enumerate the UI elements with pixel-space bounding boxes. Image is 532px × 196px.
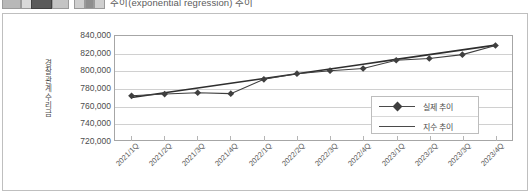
x-tick-label: 2022/1Q	[247, 142, 273, 168]
y-tick-label: 800,000	[55, 66, 111, 75]
data-point-marker[interactable]	[426, 55, 433, 62]
x-tick-mark	[230, 136, 231, 141]
data-point-marker[interactable]	[459, 51, 466, 58]
chart-canvas: 경찰관계수리금 840,000820,000800,000780,000760,…	[3, 14, 529, 192]
x-tick-mark	[496, 136, 497, 141]
toolbar-chip-1-icon[interactable]	[2, 0, 21, 9]
x-tick-label: 2021/2Q	[148, 142, 174, 168]
cropped-toolbar-strip: 추이(exponential regression) 추이	[0, 0, 532, 11]
x-tick-mark	[430, 136, 431, 141]
x-tick-mark	[297, 136, 298, 141]
legend-label-actual: 실제 추이	[423, 101, 453, 112]
y-tick-label: 840,000	[55, 31, 111, 40]
legend-item-actual[interactable]: 실제 추이	[372, 97, 478, 116]
chart-legend: 실제 추이 지수 추이	[371, 96, 479, 134]
x-tick-mark	[264, 136, 265, 141]
x-tick-mark	[131, 136, 132, 141]
plot-area: 실제 추이 지수 추이	[114, 35, 513, 141]
x-tick-label: 2023/4Q	[480, 142, 506, 168]
y-tick-label: 720,000	[55, 137, 111, 146]
x-tick-mark	[397, 136, 398, 141]
toolbar-chip-6-icon[interactable]	[85, 0, 94, 9]
x-tick-label: 2022/4Q	[347, 142, 373, 168]
x-tick-label: 2022/3Q	[314, 142, 340, 168]
y-tick-label: 820,000	[55, 48, 111, 57]
figure-frame: 경찰관계수리금 840,000820,000800,000780,000760,…	[2, 13, 528, 191]
x-tick-mark	[463, 136, 464, 141]
x-tick-mark	[363, 136, 364, 141]
x-axis-tick-labels: 2021/1Q2021/2Q2021/3Q2021/4Q2022/1Q2022/…	[114, 142, 513, 190]
data-point-marker[interactable]	[492, 42, 499, 49]
legend-line-icon	[377, 121, 417, 133]
data-point-marker[interactable]	[294, 70, 301, 77]
data-point-marker[interactable]	[393, 57, 400, 64]
toolbar-chip-5-icon[interactable]	[74, 0, 85, 9]
y-tick-label: 760,000	[55, 101, 111, 110]
data-point-marker[interactable]	[260, 76, 267, 83]
toolbar-chip-3-icon[interactable]	[31, 0, 52, 9]
toolbar-chip-7-icon[interactable]	[94, 0, 105, 9]
toolbar-chip-4-icon[interactable]	[52, 0, 69, 9]
x-tick-label: 2023/3Q	[447, 142, 473, 168]
x-tick-label: 2021/1Q	[114, 142, 140, 168]
data-point-marker[interactable]	[194, 89, 201, 96]
data-point-marker[interactable]	[128, 92, 135, 99]
legend-marker-diamond-icon	[377, 101, 417, 113]
x-tick-mark	[164, 136, 165, 141]
y-tick-label: 780,000	[55, 84, 111, 93]
x-tick-mark	[197, 136, 198, 141]
legend-item-exponential[interactable]: 지수 추이	[372, 116, 478, 136]
data-point-marker[interactable]	[227, 90, 234, 97]
y-axis-title-text: 경찰관계수리금	[43, 59, 51, 118]
legend-label-exponential: 지수 추이	[423, 121, 453, 132]
y-axis-tick-labels: 840,000820,000800,000780,000760,000740,0…	[53, 14, 111, 192]
x-tick-label: 2021/4Q	[214, 142, 240, 168]
y-tick-label: 740,000	[55, 119, 111, 128]
x-tick-mark	[330, 136, 331, 141]
data-point-marker[interactable]	[360, 65, 367, 72]
series-line-exponential	[132, 45, 496, 97]
cropped-figure-caption: 추이(exponential regression) 추이	[110, 0, 253, 9]
x-tick-label: 2023/1Q	[380, 142, 406, 168]
x-tick-label: 2023/2Q	[414, 142, 440, 168]
x-tick-label: 2021/3Q	[181, 142, 207, 168]
x-tick-label: 2022/2Q	[281, 142, 307, 168]
